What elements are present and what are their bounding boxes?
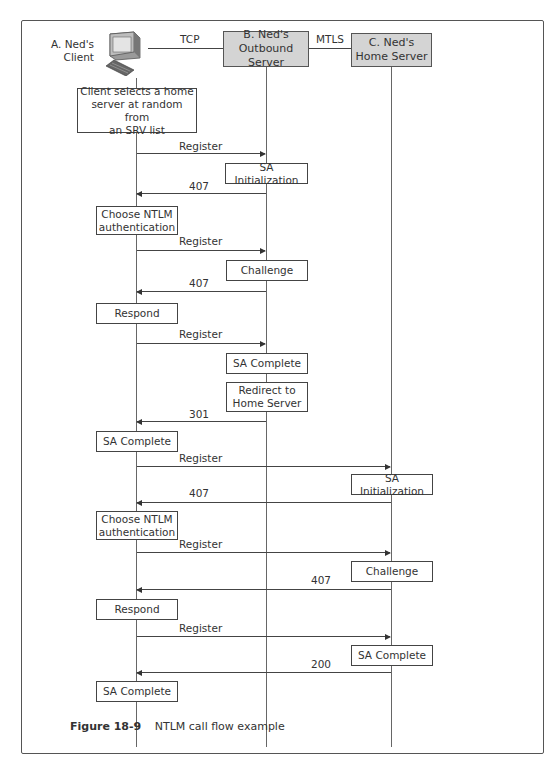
message-label: 407	[189, 277, 209, 290]
message-arrow-407	[137, 589, 391, 590]
note-a-sa-complete: SA Complete	[96, 431, 178, 452]
participant-a-line2: Client	[40, 51, 94, 64]
message-label: Register	[179, 452, 222, 465]
message-arrow-register	[137, 636, 390, 637]
message-label: 407	[189, 487, 209, 500]
message-label: 407	[311, 574, 331, 587]
note-b-sa-initialization: SA Initialization	[225, 163, 308, 184]
message-arrow-register	[137, 153, 265, 154]
note-c-sa-initialization: SA Initialization	[351, 474, 433, 495]
note-c-challenge: Challenge	[351, 561, 433, 582]
note-a-choose-ntlm: Choose NTLM authentication	[96, 206, 178, 235]
message-arrow-407	[137, 291, 266, 292]
message-label: 407	[189, 180, 209, 193]
message-arrow-301	[137, 421, 266, 422]
message-arrow-407	[137, 193, 266, 194]
participant-a-label: A. Ned's Client	[40, 38, 94, 64]
note-a-choose-ntlm: Choose NTLM authentication	[96, 511, 178, 540]
lifeline-a	[136, 78, 137, 747]
figure-number: Figure 18-9	[70, 720, 141, 733]
message-arrow-407	[137, 502, 391, 503]
figure-title: NTLM call flow example	[155, 720, 285, 733]
message-arrow-register	[137, 552, 390, 553]
message-arrow-register	[137, 250, 265, 251]
note-b-redirect: Redirect to Home Server	[226, 382, 308, 412]
note-a-sa-complete: SA Complete	[96, 681, 178, 702]
tcp-label: TCP	[180, 33, 199, 46]
participant-c-box: C. Ned's Home Server	[351, 33, 432, 67]
mtls-connection-line	[308, 48, 351, 49]
message-label: Register	[179, 538, 222, 551]
message-label: Register	[179, 235, 222, 248]
note-b-sa-complete: SA Complete	[226, 353, 308, 374]
figure-caption: Figure 18-9 NTLM call flow example	[70, 720, 285, 733]
message-label: Register	[179, 140, 222, 153]
note-a-respond: Respond	[96, 599, 178, 620]
participant-b-box: B. Ned's Outbound Server	[223, 31, 309, 67]
message-label: 301	[189, 408, 209, 421]
note-client-select: Client selects a home server at random f…	[77, 88, 197, 133]
computer-icon	[100, 30, 148, 76]
note-a-respond: Respond	[96, 303, 178, 324]
message-arrow-register	[137, 466, 390, 467]
message-label: 200	[311, 658, 331, 671]
participant-a-line1: A. Ned's	[40, 38, 94, 51]
message-label: Register	[179, 328, 222, 341]
mtls-label: MTLS	[316, 33, 344, 46]
note-c-sa-complete: SA Complete	[351, 645, 433, 666]
tcp-connection-line	[148, 48, 223, 49]
note-b-challenge: Challenge	[226, 260, 308, 281]
message-arrow-200	[137, 672, 391, 673]
message-label: Register	[179, 622, 222, 635]
message-arrow-register	[137, 343, 265, 344]
